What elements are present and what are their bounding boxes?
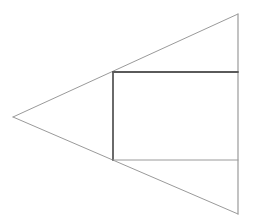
triangle-lower-edge bbox=[13, 117, 238, 214]
triangle-rectangle-diagram bbox=[0, 0, 254, 224]
diagram-canvas bbox=[0, 0, 254, 224]
triangle-upper-edge bbox=[13, 14, 238, 117]
